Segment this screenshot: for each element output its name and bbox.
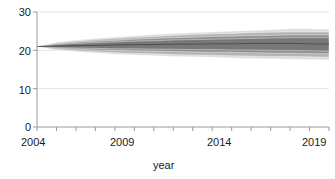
x-axis-title: year: [153, 159, 174, 171]
fan-chart-figure: 30 20 10 0 2004 2009 2014 2019 year: [0, 0, 335, 179]
x-tick-label-2004: 2004: [21, 136, 45, 148]
x-tick-label-2009: 2009: [110, 136, 134, 148]
y-tick-label-20: 20: [4, 45, 31, 57]
y-tick-label-30: 30: [4, 6, 31, 18]
y-tick-label-0: 0: [4, 121, 31, 133]
x-tick-label-2014: 2014: [207, 136, 231, 148]
x-tick-label-2019: 2019: [302, 136, 326, 148]
y-tick-label-10: 10: [4, 84, 31, 96]
chart-canvas: [0, 0, 335, 179]
